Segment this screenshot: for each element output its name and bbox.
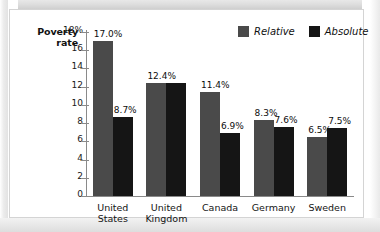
y-axis-tick-label: 16: [72, 43, 83, 53]
bar-relative-4: [307, 137, 327, 196]
y-axis-tick-label: 8: [77, 116, 83, 126]
y-axis-tick-label: 18%: [63, 25, 83, 35]
bar-relative-2: [200, 92, 220, 196]
x-axis-category-label: Sweden: [293, 202, 361, 213]
bar-value-label: 17.0%: [94, 29, 123, 39]
x-axis-category-label-line: Kingdom: [132, 213, 200, 224]
y-axis-tick-label: 0: [77, 189, 83, 199]
bar-absolute-0: [113, 117, 133, 196]
scan-left-band: [0, 0, 8, 232]
y-axis-tick-label: 14: [72, 61, 83, 71]
plot-area: 17.0%8.7%12.4%11.4%6.9%8.3%7.6%6.5%7.5%: [86, 32, 354, 196]
scan-right-band: [370, 0, 380, 232]
y-axis-tick-label: 12: [72, 80, 83, 90]
y-axis-tick-label: 6: [77, 134, 83, 144]
y-axis-tick: 0: [50, 196, 94, 197]
bar-value-label: 8.7%: [114, 105, 137, 115]
bar-absolute-2: [220, 133, 240, 196]
bar-value-label: 11.4%: [201, 80, 230, 90]
y-axis-title-line2: rate: [16, 37, 78, 48]
y-axis-tick-label: 2: [77, 171, 83, 181]
chart-panel: Poverty rate RelativeAbsolute 18%1614121…: [9, 9, 364, 218]
y-axis-tick-mark: [81, 196, 89, 197]
bar-absolute-1: [166, 83, 186, 196]
bar-value-label: 12.4%: [147, 71, 176, 81]
bar-relative-3: [254, 120, 274, 196]
bar-relative-0: [93, 41, 113, 196]
x-axis-line: [86, 196, 354, 197]
bar-value-label: 6.9%: [221, 121, 244, 131]
scan-top-band: [18, 0, 362, 9]
x-axis-category-label-line: Sweden: [293, 202, 361, 213]
bar-absolute-3: [274, 127, 294, 196]
y-axis-tick-label: 10: [72, 98, 83, 108]
bar-value-label: 7.5%: [328, 116, 351, 126]
y-axis-tick-label: 4: [77, 153, 83, 163]
bar-absolute-4: [327, 128, 347, 196]
chart-page: Poverty rate RelativeAbsolute 18%1614121…: [0, 0, 380, 232]
bar-value-label: 7.6%: [275, 115, 298, 125]
bar-relative-1: [146, 83, 166, 196]
